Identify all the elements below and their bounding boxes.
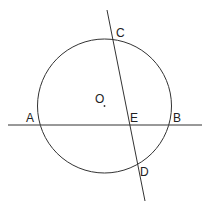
label-c: C xyxy=(116,27,125,39)
geometry-diagram: C O A E B D xyxy=(0,0,210,213)
label-b: B xyxy=(173,112,181,124)
label-d: D xyxy=(140,166,149,178)
label-o: O xyxy=(95,93,104,105)
diagram-svg xyxy=(0,0,210,213)
label-e: E xyxy=(130,112,138,124)
label-a: A xyxy=(26,112,34,124)
